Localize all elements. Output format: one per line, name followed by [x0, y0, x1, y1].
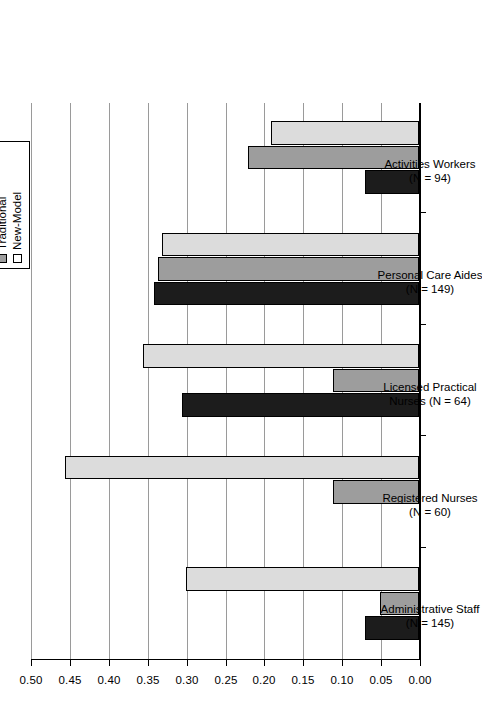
category-group: Registered Nurses(N = 60)	[31, 436, 419, 547]
category-separator-tick	[419, 435, 426, 436]
category-group: Administrative Staff(N = 145)	[31, 548, 419, 659]
bar	[65, 456, 419, 480]
axis-tick-label: 0.40	[97, 673, 120, 685]
category-axis-label: Activities Workers(N = 94)	[384, 158, 475, 185]
category-label-line2: (N = 145)	[381, 617, 480, 631]
axis-tick	[187, 659, 188, 666]
axis-tick	[226, 659, 227, 666]
plot-area: 0.500.450.400.350.300.250.200.150.100.05…	[31, 103, 420, 660]
category-label-line2: (N = 149)	[378, 283, 482, 297]
category-axis-label: Personal Care Aides(N = 149)	[378, 269, 482, 296]
category-axis-label: Licensed PracticalNurses (N = 64)	[383, 381, 476, 408]
axis-tick	[381, 659, 382, 666]
axis-tick-label: 0.15	[292, 673, 315, 685]
legend-item-label: Traditional	[0, 197, 10, 250]
category-label-line2: (N = 94)	[384, 171, 475, 185]
axis-tick	[420, 659, 421, 666]
bar	[186, 567, 419, 591]
chart-legend: Fewer than 16 bedsTraditionalNew-Model	[0, 141, 30, 269]
axis-tick	[70, 659, 71, 666]
axis-tick-label: 0.45	[58, 673, 81, 685]
category-separator-tick	[419, 212, 426, 213]
category-label-line1: Registered Nurses	[382, 492, 477, 506]
axis-tick	[303, 659, 304, 666]
axis-tick-label: 0.30	[175, 673, 198, 685]
bar	[143, 344, 419, 368]
gray-square-icon	[0, 254, 7, 263]
category-label-line1: Activities Workers	[384, 158, 475, 172]
legend-item: Traditional	[0, 148, 10, 263]
category-group: Activities Workers(N = 94)	[31, 102, 419, 213]
axis-tick	[342, 659, 343, 666]
white-square-icon	[13, 254, 22, 263]
axis-tick-label: 0.20	[253, 673, 276, 685]
axis-tick	[264, 659, 265, 666]
category-axis-label: Registered Nurses(N = 60)	[382, 492, 477, 519]
axis-tick	[109, 659, 110, 666]
category-label-line1: Administrative Staff	[381, 603, 480, 617]
axis-tick-label: 0.10	[331, 673, 354, 685]
legend-item: New-Model	[10, 148, 25, 263]
axis-tick	[31, 659, 32, 666]
category-axis-label: Administrative Staff(N = 145)	[381, 603, 480, 630]
axis-tick	[148, 659, 149, 666]
category-separator-tick	[419, 547, 426, 548]
category-label-line1: Personal Care Aides	[378, 269, 482, 283]
category-label-line2: Nurses (N = 64)	[383, 394, 476, 408]
category-group: Personal Care Aides(N = 149)	[31, 213, 419, 324]
axis-tick-label: 0.00	[409, 673, 432, 685]
category-label-line1: Licensed Practical	[383, 381, 476, 395]
bar	[162, 233, 419, 257]
category-separator-tick	[419, 324, 426, 325]
category-group: Licensed PracticalNurses (N = 64)	[31, 325, 419, 436]
axis-tick-label: 0.35	[136, 673, 159, 685]
legend-item-label: New-Model	[10, 192, 25, 250]
bar	[271, 121, 419, 145]
axis-tick-label: 0.05	[370, 673, 393, 685]
axis-tick-label: 0.25	[214, 673, 237, 685]
category-label-line2: (N = 60)	[382, 505, 477, 519]
axis-tick-label: 0.50	[20, 673, 43, 685]
